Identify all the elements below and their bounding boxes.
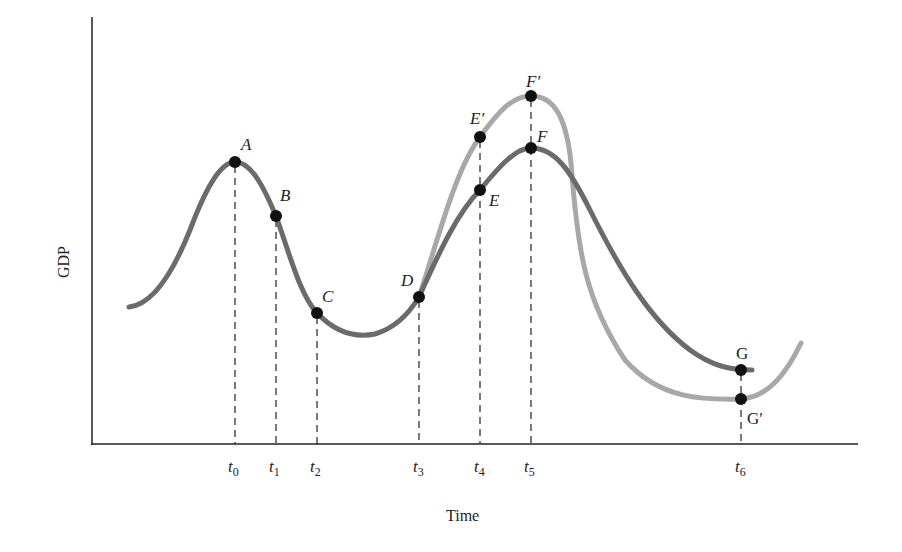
svg-text:t6: t6 <box>735 457 746 479</box>
point-G-prime <box>735 393 747 405</box>
label-F: F <box>536 127 548 146</box>
label-E: E <box>488 191 500 210</box>
business-cycle-chart: A B C D E E′ F F′ G G′ t0 t1 t2 t3 t4 t5… <box>0 0 902 552</box>
point-B <box>270 210 282 222</box>
svg-text:t5: t5 <box>524 457 535 479</box>
point-E-prime <box>474 131 486 143</box>
point-A <box>229 156 241 168</box>
dashed-guides <box>235 100 741 444</box>
x-tick-labels: t0 t1 t2 t3 t4 t5 t6 <box>228 457 746 479</box>
point-E <box>474 184 486 196</box>
y-axis-title: GDP <box>55 246 72 278</box>
data-points <box>229 90 747 405</box>
svg-text:t0: t0 <box>228 457 239 479</box>
label-G: G <box>736 344 748 363</box>
point-G <box>735 364 747 376</box>
point-C <box>311 307 323 319</box>
point-F-prime <box>525 90 537 102</box>
label-F-prime: F′ <box>525 72 540 91</box>
label-E-prime: E′ <box>469 109 484 128</box>
svg-text:t2: t2 <box>310 457 321 479</box>
label-C: C <box>322 287 334 306</box>
label-A: A <box>240 135 252 154</box>
point-D <box>413 291 425 303</box>
svg-text:t3: t3 <box>413 457 424 479</box>
point-F <box>525 142 537 154</box>
label-G-prime: G′ <box>747 409 763 428</box>
svg-text:t4: t4 <box>474 457 485 479</box>
x-axis-title: Time <box>446 507 479 524</box>
original-cycle-curve <box>129 148 752 370</box>
label-D: D <box>400 271 414 290</box>
label-B: B <box>280 186 291 205</box>
svg-text:t1: t1 <box>269 457 280 479</box>
